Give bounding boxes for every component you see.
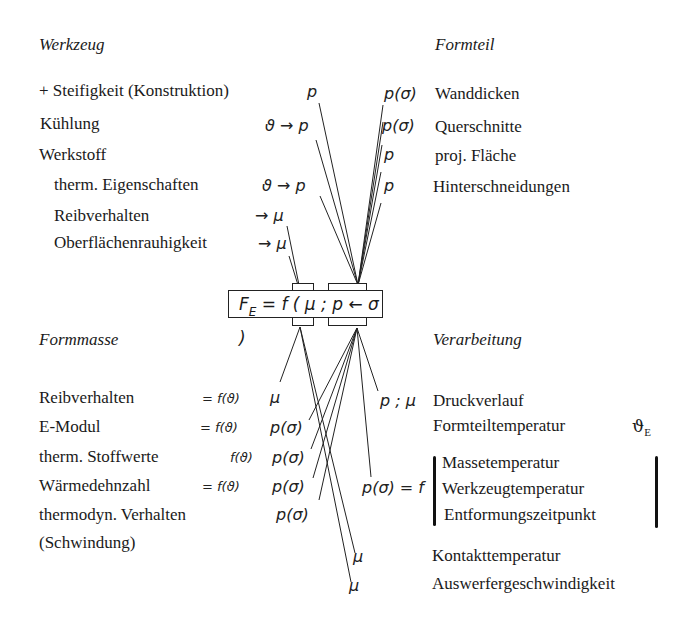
verarbeitung-heading: Verarbeitung (433, 330, 522, 350)
verarbeitung-item-druckverlauf: Druckverlauf (433, 391, 524, 411)
verarbeitung-symbol-theta-e: ϑE (632, 416, 651, 438)
werkzeug-item-kuehlung: Kühlung (40, 114, 100, 134)
formmasse-symbol-reibverhalten: μ (270, 390, 280, 406)
werkzeug-symbol-reibverhalten: → μ (255, 208, 284, 224)
verarbeitung-item-werkzeugtemperatur: Werkzeugtemperatur (442, 479, 584, 499)
werkzeug-symbol-oberflaeche: → μ (258, 236, 287, 252)
formmasse-fn-reibverhalten: = f(ϑ) (202, 391, 240, 407)
formula-box: FE = f ( μ ; p ← σ ) (228, 290, 383, 318)
formteil-symbol-proj-flaeche: p (384, 147, 394, 163)
right-bracket (655, 456, 658, 528)
formmasse-symbol-e-modul: p(σ) (270, 420, 303, 436)
verarbeitung-item-kontakttemperatur: Kontakttemperatur (432, 546, 560, 566)
verarbeitung-item-entformungszeitpunkt: Entformungszeitpunkt (444, 505, 596, 525)
formmasse-item-therm-stoffwerte: therm. Stoffwerte (39, 447, 159, 467)
verarbeitung-item-massetemperatur: Massetemperatur (442, 453, 559, 473)
formteil-item-proj-flaeche: proj. Fläche (435, 146, 516, 166)
formteil-item-querschnitte: Querschnitte (435, 117, 522, 137)
werkzeug-item-steifigkeit: + Steifigkeit (Konstruktion) (39, 81, 229, 101)
left-bracket (433, 456, 436, 526)
formmasse-symbol-thermodyn: p(σ) (276, 507, 309, 523)
formteil-item-wanddicken: Wanddicken (435, 84, 520, 104)
formmasse-item-e-modul: E-Modul (39, 417, 100, 437)
verarbeitung-item-auswerfergeschwindigkeit: Auswerfergeschwindigkeit (432, 574, 615, 594)
werkzeug-symbol-kuehlung: ϑ → p (265, 118, 309, 134)
werkzeug-symbol-therm: ϑ → p (262, 178, 306, 194)
formteil-item-hinterschneidungen: Hinterschneidungen (433, 177, 570, 197)
formmasse-heading: Formmasse (39, 330, 118, 350)
formmasse-item-thermodyn: thermodyn. Verhalten (39, 505, 186, 525)
werkzeug-item-therm-eigenschaften: therm. Eigenschaften (54, 175, 198, 195)
formteil-heading: Formteil (435, 35, 495, 55)
formmasse-fn-waermedehnzahl: = f(ϑ) (202, 479, 240, 495)
formteil-symbol-wanddicken: p(σ) (384, 86, 417, 102)
verarbeitung-symbol-temperaturen: p(σ) = f (362, 480, 424, 496)
verarbeitung-symbol-kontakt: μ (353, 549, 363, 565)
werkzeug-item-reibverhalten: Reibverhalten (54, 206, 149, 226)
formmasse-fn-therm-stoffwerte: f(ϑ) (230, 450, 253, 466)
werkzeug-heading: Werkzeug (39, 35, 104, 55)
verarbeitung-item-formteiltemperatur: Formteiltemperatur (433, 416, 565, 436)
formmasse-symbol-waermedehnzahl: p(σ) (272, 479, 305, 495)
verarbeitung-symbol-druckverlauf: p ; μ (380, 393, 416, 409)
formteil-symbol-hinterschneidungen: p (384, 178, 394, 194)
formmasse-fn-e-modul: = f(ϑ) (200, 420, 238, 436)
formmasse-symbol-therm-stoffwerte: p(σ) (272, 450, 305, 466)
formmasse-item-schwindung: (Schwindung) (39, 533, 135, 553)
werkzeug-item-oberflaeche: Oberflächenrauhigkeit (54, 233, 207, 253)
formmasse-item-reibverhalten: Reibverhalten (39, 388, 134, 408)
werkzeug-symbol-steifigkeit: p (307, 84, 317, 100)
formmasse-item-waermedehnzahl: Wärmedehnzahl (39, 476, 150, 496)
verarbeitung-symbol-auswerfer: μ (349, 578, 359, 594)
formteil-symbol-querschnitte: p(σ) (382, 118, 415, 134)
werkzeug-item-werkstoff: Werkstoff (39, 145, 106, 165)
